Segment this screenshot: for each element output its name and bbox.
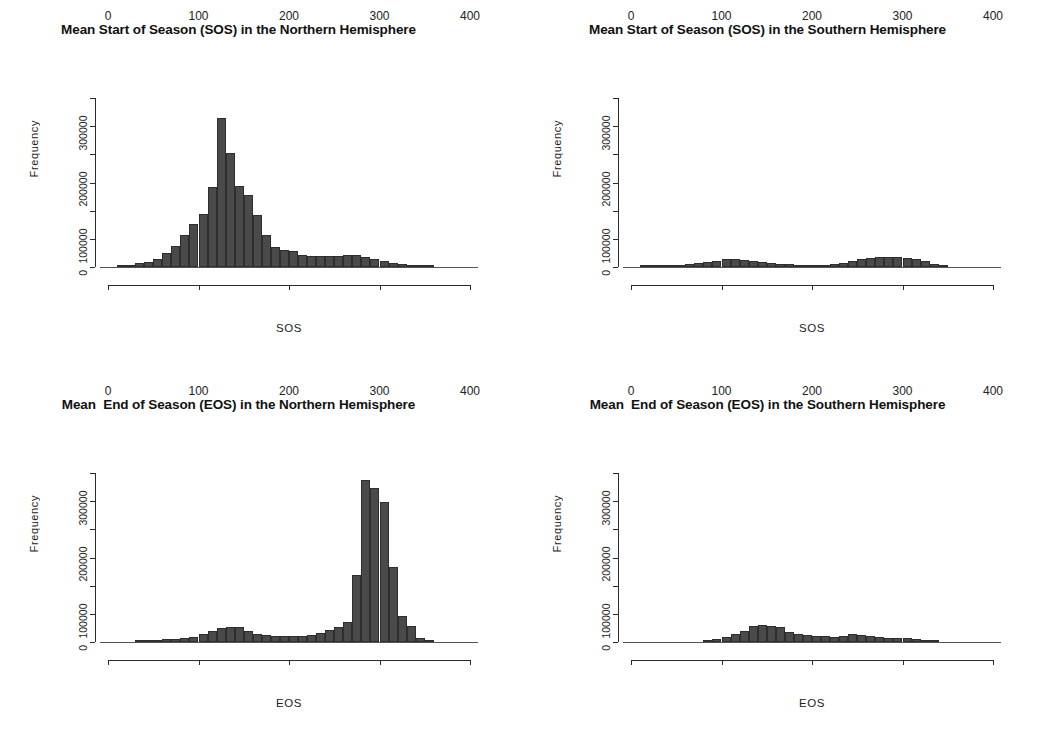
- x-axis-tick-label: 400: [983, 9, 1003, 23]
- y-axis-title: Frequency: [28, 120, 40, 177]
- histogram-bar: [712, 261, 721, 267]
- histogram-bar: [685, 264, 694, 267]
- y-axis-minor-tick: [90, 501, 95, 502]
- x-axis-line: [108, 285, 470, 286]
- histogram-bar: [640, 265, 649, 267]
- histogram-bar: [785, 264, 794, 267]
- x-axis-tick-label: 400: [983, 384, 1003, 398]
- histogram-bar: [749, 261, 758, 267]
- histogram-bar: [389, 263, 398, 267]
- plot-area: [631, 98, 993, 267]
- histogram-bar: [343, 255, 352, 267]
- histogram-bar: [171, 639, 180, 642]
- histogram-bar: [407, 626, 416, 642]
- histogram-bar: [244, 195, 253, 267]
- histogram-bar: [803, 265, 812, 267]
- y-axis-minor-tick: [613, 558, 618, 559]
- histogram-bar: [712, 639, 721, 642]
- y-axis-line: [618, 98, 619, 267]
- y-axis-tick: [613, 642, 618, 643]
- histogram-bar: [217, 118, 226, 267]
- x-axis-tick-label: 0: [105, 9, 112, 23]
- histogram-bar: [370, 259, 379, 267]
- histogram-bar: [740, 631, 749, 642]
- histogram-bar: [875, 257, 884, 267]
- histogram-bar: [930, 264, 939, 267]
- panel-eos-southern: Mean End of Season (EOS) in the Southern…: [523, 375, 1046, 750]
- y-axis-tick-label: 300000: [601, 491, 612, 526]
- bars-sos-southern: [631, 98, 993, 267]
- x-axis-title: EOS: [108, 697, 470, 709]
- histogram-bar: [830, 637, 839, 642]
- y-axis-tick-label: 100000: [601, 603, 612, 638]
- x-axis-tick: [199, 285, 200, 290]
- y-axis-tick-label: 200000: [601, 547, 612, 582]
- histogram-bar: [731, 634, 740, 642]
- y-axis-title: Frequency: [28, 495, 40, 552]
- x-axis-tick: [903, 660, 904, 665]
- histogram-bar: [866, 258, 875, 267]
- panel-sos-northern: Mean Start of Season (SOS) in the Northe…: [0, 0, 523, 375]
- histogram-bar: [208, 187, 217, 267]
- histogram-bar: [208, 631, 217, 642]
- histogram-bar: [731, 259, 740, 267]
- histogram-bar: [334, 627, 343, 642]
- histogram-bar: [921, 640, 930, 642]
- histogram-bar: [244, 631, 253, 642]
- y-axis-tick: [90, 586, 95, 587]
- histogram-bar: [253, 634, 262, 642]
- x-axis-tick-label: 0: [105, 384, 112, 398]
- x-axis-tick: [722, 285, 723, 290]
- x-axis-tick: [631, 285, 632, 290]
- x-axis-tick-label: 300: [369, 384, 389, 398]
- histogram-bar: [703, 640, 712, 642]
- histogram-bar: [398, 264, 407, 267]
- y-axis-tick: [613, 586, 618, 587]
- histogram-bar: [839, 263, 848, 267]
- x-axis-tick-label: 100: [711, 384, 731, 398]
- histogram-bar: [289, 636, 298, 642]
- y-axis-line: [95, 473, 96, 642]
- histogram-bar: [235, 627, 244, 642]
- histogram-bar: [758, 625, 767, 642]
- histogram-bar: [939, 265, 948, 267]
- histogram-bar: [217, 628, 226, 642]
- histogram-bar: [153, 259, 162, 267]
- histogram-bar: [749, 626, 758, 642]
- histogram-bar: [875, 637, 884, 642]
- histogram-bar: [758, 262, 767, 267]
- histogram-bar: [280, 636, 289, 642]
- histogram-bar: [921, 261, 930, 267]
- x-axis-line: [108, 660, 470, 661]
- histogram-bar: [262, 635, 271, 642]
- histogram-bar: [189, 637, 198, 642]
- histogram-bar: [398, 616, 407, 642]
- histogram-bar: [271, 636, 280, 642]
- x-axis-tick-label: 300: [369, 9, 389, 23]
- x-axis-tick: [722, 660, 723, 665]
- histogram-bar: [334, 256, 343, 267]
- y-axis-tick-label: 200000: [78, 547, 89, 582]
- y-axis-minor-tick: [613, 239, 618, 240]
- y-axis-line: [95, 98, 96, 267]
- panel-eos-northern: Mean End of Season (EOS) in the Northern…: [0, 375, 523, 750]
- y-axis-tick: [613, 154, 618, 155]
- y-axis-title: Frequency: [551, 495, 563, 552]
- histogram-bar: [289, 251, 298, 267]
- histogram-bar: [884, 638, 893, 643]
- y-axis-tick-label: 0: [78, 645, 89, 651]
- y-axis-tick-label: 200000: [601, 172, 612, 207]
- histogram-bar: [794, 634, 803, 642]
- x-axis-tick: [380, 660, 381, 665]
- histogram-bar: [180, 638, 189, 642]
- plot-area: [108, 473, 470, 642]
- x-axis-tick-label: 0: [628, 384, 635, 398]
- x-axis-tick: [108, 660, 109, 665]
- y-axis-tick: [90, 267, 95, 268]
- histogram-bar: [407, 265, 416, 267]
- histogram-bar: [694, 263, 703, 267]
- histogram-bar: [776, 627, 785, 642]
- histogram-bar: [126, 265, 135, 267]
- y-tick-label-group: 0100000200000300000: [0, 375, 92, 750]
- x-axis-tick-label: 300: [892, 9, 912, 23]
